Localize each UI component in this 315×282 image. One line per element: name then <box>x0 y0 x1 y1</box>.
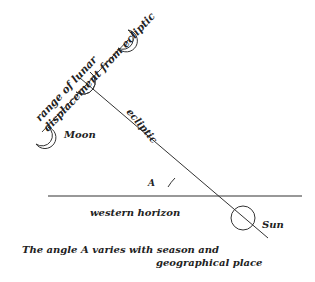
angle-arc <box>168 178 175 187</box>
sun-label: Sun <box>262 219 284 230</box>
sun-icon <box>231 206 255 230</box>
ecliptic-label: ecliptic <box>124 106 159 145</box>
diagram-svg: range of lunar displacement from eclipti… <box>0 0 315 282</box>
angle-label: A <box>147 178 155 188</box>
horizon-label: western horizon <box>90 207 180 218</box>
lunar-ecliptic-diagram: range of lunar displacement from eclipti… <box>0 0 315 282</box>
moon-label: Moon <box>63 129 96 140</box>
caption-line1: The angle A varies with season and <box>22 244 219 255</box>
caption-line2: geographical place <box>156 257 262 268</box>
